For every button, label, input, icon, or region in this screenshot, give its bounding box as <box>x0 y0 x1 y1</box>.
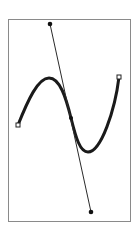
bezier-diagram <box>0 0 139 232</box>
handle-bottom-point[interactable] <box>89 210 94 215</box>
anchor-point-middle[interactable] <box>69 116 73 120</box>
frame-border <box>9 20 131 222</box>
endpoint-end-square[interactable] <box>117 75 121 79</box>
bezier-curve[interactable] <box>18 77 119 152</box>
handle-top-point[interactable] <box>48 22 53 27</box>
endpoint-start-square[interactable] <box>16 123 20 127</box>
